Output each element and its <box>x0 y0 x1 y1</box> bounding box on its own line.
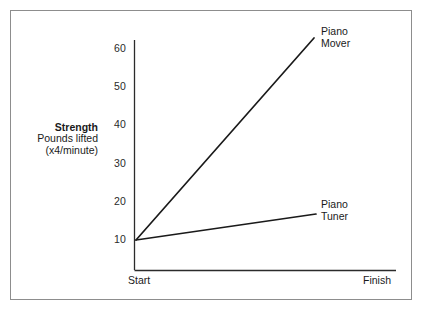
series-line-piano-mover <box>136 38 314 240</box>
series-label-piano-mover-line-2: Mover <box>321 38 350 50</box>
x-tick-label-finish: Finish <box>363 275 391 286</box>
y-axis-title: Strength Pounds lifted (x4/minute) <box>12 122 98 156</box>
series-label-piano-mover-line-1: Piano <box>321 26 350 38</box>
x-tick-label-start: Start <box>128 275 150 286</box>
series-label-piano-tuner: Piano Tuner <box>321 199 348 222</box>
chart-figure: 60 50 40 30 20 10 Strength Pounds lifted… <box>0 0 421 314</box>
series-label-piano-tuner-line-1: Piano <box>321 199 348 211</box>
y-tick-label-30: 30 <box>100 158 126 169</box>
y-tick-label-20: 20 <box>100 196 126 207</box>
y-tick-label-50: 50 <box>100 81 126 92</box>
y-tick-label-10: 10 <box>100 234 126 245</box>
series-line-piano-tuner <box>136 214 316 240</box>
series-label-piano-tuner-line-2: Tuner <box>321 211 348 223</box>
y-axis-title-line-3: (x4/minute) <box>12 145 98 156</box>
plot-area <box>0 0 421 314</box>
series-label-piano-mover: Piano Mover <box>321 26 350 49</box>
y-tick-label-60: 60 <box>100 43 126 54</box>
y-tick-label-40: 40 <box>100 119 126 130</box>
